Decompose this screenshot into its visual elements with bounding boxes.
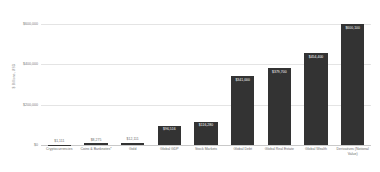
y-axis-tick-label: $600,000 xyxy=(23,22,38,26)
bar-value-label: $341,000 xyxy=(231,78,254,82)
bar-slot: $96,516 xyxy=(151,14,188,145)
bar[interactable]: $600,100 xyxy=(341,24,364,145)
bar-slot: $600,100 xyxy=(334,14,371,145)
bar-value-label: $379,700 xyxy=(268,70,291,74)
bar-slot: $341,000 xyxy=(224,14,261,145)
bar-value-label: $12,111 xyxy=(112,137,154,141)
x-axis-category-label: Global Wealth xyxy=(298,147,335,157)
y-axis-title: $ Billions, USD xyxy=(12,46,16,106)
x-axis-labels: CryptocurrenciesCoins & Banknotes*GoldGl… xyxy=(41,147,371,157)
bar[interactable]: $454,400 xyxy=(304,53,327,145)
bar-slot: $1,111 xyxy=(41,14,78,145)
bar-slot: $8,275 xyxy=(78,14,115,145)
bar-value-label: $96,516 xyxy=(158,127,181,131)
bar[interactable]: $96,516 xyxy=(158,126,181,145)
y-axis-tick-label: $0 xyxy=(34,143,38,147)
x-axis-category-label: Coins & Banknotes* xyxy=(78,147,115,157)
x-axis-line xyxy=(41,145,371,146)
bar-value-label: $454,400 xyxy=(304,55,327,59)
bar-value-label: $116,280 xyxy=(194,123,217,127)
x-axis-category-label: Gold xyxy=(114,147,151,157)
bar-slot: $454,400 xyxy=(298,14,335,145)
x-axis-category-label: Cryptocurrencies xyxy=(41,147,78,157)
x-axis-category-label: Global GDP xyxy=(151,147,188,157)
y-axis-tick-label: $200,000 xyxy=(23,103,38,107)
bar[interactable]: $8,275 xyxy=(84,143,107,145)
x-axis-category-label: Global Real Estate xyxy=(261,147,298,157)
bar[interactable]: $379,700 xyxy=(268,68,291,145)
bar-value-label: $600,100 xyxy=(341,26,364,30)
y-axis-tick-label: $400,000 xyxy=(23,62,38,66)
plot-area: $0$200,000$400,000$600,000 $1,111$8,275$… xyxy=(41,14,371,145)
bar[interactable]: $12,111 xyxy=(121,143,144,145)
bar-slot: $379,700 xyxy=(261,14,298,145)
bar-chart: $ Billions, USD $0$200,000$400,000$600,0… xyxy=(0,0,380,172)
x-axis-category-label: Derivatives (Notional Value) xyxy=(334,147,371,157)
x-axis-category-label: Stock Markets xyxy=(188,147,225,157)
bar[interactable]: $341,000 xyxy=(231,76,254,145)
bar-slot: $12,111 xyxy=(114,14,151,145)
bar-slot: $116,280 xyxy=(188,14,225,145)
bar[interactable]: $116,280 xyxy=(194,122,217,145)
x-axis-category-label: Global Debt xyxy=(224,147,261,157)
bar-series: $1,111$8,275$12,111$96,516$116,280$341,0… xyxy=(41,14,371,145)
